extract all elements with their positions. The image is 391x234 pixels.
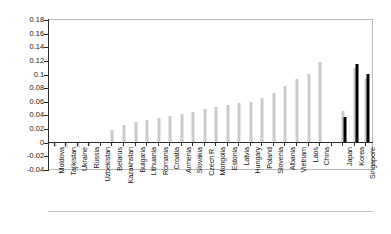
x-axis-tick [354,142,355,146]
y-axis-tick [44,129,48,130]
x-axis-tick [100,142,101,146]
x-axis-tick-label: Russia [92,147,101,168]
y-axis-tick-label: 0.04 [2,111,44,119]
y-axis-tick [44,102,48,103]
bar-gray [192,112,195,143]
x-axis-tick [88,142,89,146]
bar-black [344,117,347,143]
y-axis-tick [44,88,48,89]
bar-black [355,64,358,142]
x-axis-tick-label: Latvia [242,147,251,166]
x-axis-tick [296,142,297,146]
x-axis-tick [250,142,251,146]
x-axis-tick [331,142,332,146]
bar-gray [215,107,218,142]
x-axis-tick [308,142,309,146]
x-axis-tick-label: Bulgaria [138,147,147,173]
x-axis-tick-label: Hungary [253,147,262,173]
y-axis-tick-label: 0.18 [2,16,44,24]
bar-gray [111,130,114,142]
x-axis-tick-label: Vietnam [299,147,308,173]
x-axis-tick [261,142,262,146]
x-axis-tick [123,142,124,146]
x-axis-tick [365,142,366,146]
y-axis-tick-label: 0.06 [2,98,44,106]
x-axis-tick-label: Romania [161,147,170,175]
bar-black [367,74,370,143]
bar-gray [169,116,172,143]
y-axis-tick-label: 0.16 [2,30,44,38]
y-axis-tick-label: 0.08 [2,84,44,92]
x-axis-tick-label: Slovenia [276,147,285,174]
x-axis-tick-label: Kazakhstan [126,147,135,184]
x-axis-tick [227,142,228,146]
y-axis-tick [44,143,48,144]
y-axis-tick [44,34,48,35]
x-axis-tick [319,142,320,146]
x-axis-tick-label: China [322,147,331,165]
x-axis-tick [158,142,159,146]
x-axis-tick [181,142,182,146]
x-axis-tick-label: Poland [265,147,274,169]
x-axis-tick [215,142,216,146]
y-axis-tick [44,20,48,21]
x-axis-tick [238,142,239,146]
y-axis-labels: 0.180.160.140.120.10.080.060.040.020-0.0… [0,0,44,234]
y-axis-tick-label: 0.1 [2,71,44,79]
bar-gray [122,125,125,143]
bar-gray [296,79,299,143]
y-axis-tick-label: 0.14 [2,43,44,51]
y-axis-tick-label: 0 [2,139,44,147]
y-axis-tick [44,75,48,76]
x-axis-tick-label: Czech R. [207,147,216,176]
y-axis-tick [44,47,48,48]
x-axis-tick-label: Laos [311,147,320,162]
x-axis-tick-label: Armenia [184,147,193,173]
y-axis-tick [44,156,48,157]
x-axis-tick-label: Singapore [368,147,377,179]
y-axis-tick [44,170,48,171]
x-axis-tick-label: Estonia [230,147,239,170]
bar-gray [238,103,241,143]
bar-gray [146,120,149,143]
bar-gray [319,62,322,142]
x-axis-tick [273,142,274,146]
x-axis-tick-label: Mongolia [218,147,227,175]
bar-gray [157,118,160,143]
y-axis-tick [44,115,48,116]
x-axis-tick [192,142,193,146]
bar-gray [272,93,275,143]
bar-gray [134,122,137,142]
bar-gray [249,102,252,143]
x-axis-tick [65,142,66,146]
x-axis-tick [342,142,343,146]
y-axis-tick-label: -0.04 [2,166,44,174]
bar-gray [284,86,287,143]
y-axis-tick-label: 0.12 [2,57,44,65]
bar-gray [261,98,264,142]
y-axis-tick-label: -0.02 [2,152,44,160]
x-axis-tick [135,142,136,146]
x-axis-tick-label: Belarus [115,147,124,171]
x-axis-tick [77,142,78,146]
x-axis-tick-label: Uzbekistan [103,147,112,182]
x-axis-tick [54,142,55,146]
bar-gray [180,114,183,143]
x-axis-tick-label: Moldova [57,147,66,173]
bar-gray [203,109,206,142]
x-axis-tick-label: Ukraine [80,147,89,171]
y-axis-tick [44,61,48,62]
x-axis-labels: MoldovaTajikistanUkraineRussiaUzbekistan… [48,147,373,233]
bar-gray [307,74,310,143]
bottom-rule [48,211,373,212]
x-axis-tick-label: Tajikistan [69,147,78,176]
x-axis-tick-label: Korea [357,147,366,166]
bar-gray [226,105,229,143]
x-axis-tick [146,142,147,146]
x-axis-tick-label: Japan [345,147,354,166]
x-axis-tick [169,142,170,146]
x-axis-tick-label: Albania [288,147,297,170]
x-axis-tick [204,142,205,146]
x-axis-tick [284,142,285,146]
x-axis-tick-label: Lithuania [149,147,158,175]
